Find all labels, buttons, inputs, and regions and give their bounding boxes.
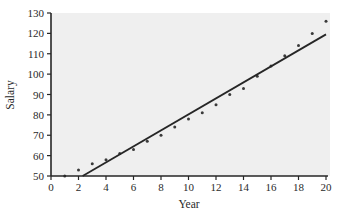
x-tick-label: 14 xyxy=(238,181,250,193)
data-point xyxy=(297,44,300,47)
x-tick-label: 10 xyxy=(183,181,195,193)
x-tick-label: 18 xyxy=(293,181,305,193)
y-tick-label: 100 xyxy=(28,68,45,80)
x-tick-label: 20 xyxy=(321,181,333,193)
data-point xyxy=(201,111,204,114)
x-tick-label: 6 xyxy=(131,181,137,193)
x-tick-label: 16 xyxy=(266,181,278,193)
data-point xyxy=(132,148,135,151)
data-point xyxy=(77,168,80,171)
y-tick-label: 120 xyxy=(28,27,45,39)
x-tick-label: 8 xyxy=(158,181,164,193)
data-point xyxy=(242,87,245,90)
x-tick-label: 2 xyxy=(76,181,82,193)
y-tick-label: 130 xyxy=(28,7,45,19)
y-tick-label: 110 xyxy=(28,48,45,60)
y-tick-label: 80 xyxy=(33,109,45,121)
y-axis-label: Salary xyxy=(4,80,17,110)
x-tick-label: 4 xyxy=(103,181,109,193)
y-tick-label: 90 xyxy=(33,89,45,101)
x-axis-ticks: 02468101214161820 xyxy=(48,176,332,193)
y-tick-label: 70 xyxy=(33,129,45,141)
x-axis-label: Year xyxy=(178,198,199,210)
data-point xyxy=(311,32,314,35)
data-point xyxy=(91,162,94,165)
y-tick-label: 60 xyxy=(33,150,45,162)
x-tick-label: 0 xyxy=(48,181,54,193)
data-point xyxy=(173,126,176,129)
plot-area xyxy=(51,13,330,176)
data-point xyxy=(325,20,328,23)
x-tick-label: 12 xyxy=(211,181,222,193)
y-tick-label: 50 xyxy=(33,170,45,182)
data-point xyxy=(160,134,163,137)
data-point xyxy=(215,103,218,106)
y-axis-ticks: 5060708090100110120130 xyxy=(28,7,52,182)
data-point xyxy=(228,93,231,96)
salary-scatter-chart: 5060708090100110120130 02468101214161820… xyxy=(0,0,342,214)
data-point xyxy=(187,117,190,120)
data-point xyxy=(146,140,149,143)
